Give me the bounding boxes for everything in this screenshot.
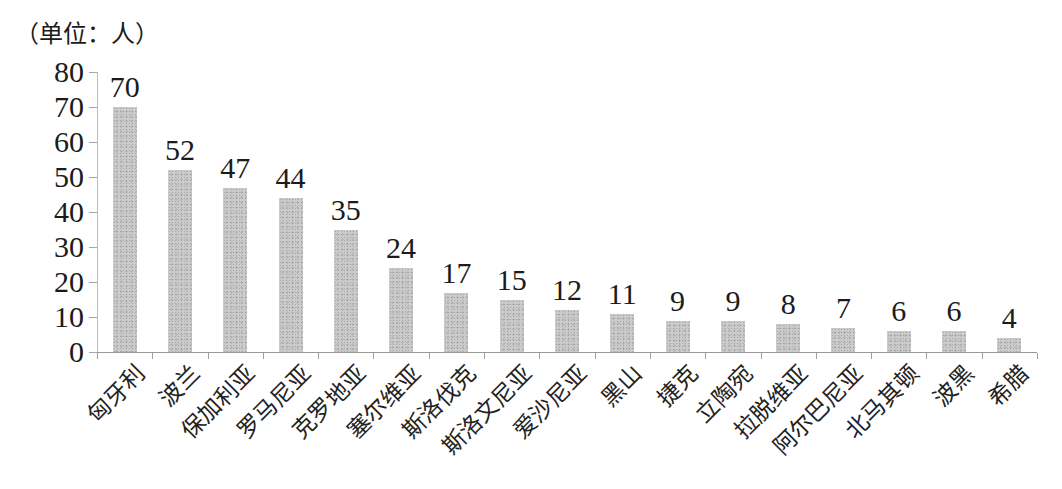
bar-chart: （单位：人） 0102030405060708070匈牙利52波兰47保加利亚4…	[0, 0, 1062, 489]
x-axis-tick	[318, 353, 319, 359]
x-axis-tick	[926, 353, 927, 359]
x-axis-tick	[539, 353, 540, 359]
bar	[444, 293, 468, 353]
bar	[168, 170, 192, 352]
bar	[997, 338, 1021, 352]
x-axis-tick	[761, 353, 762, 359]
x-axis-tick	[982, 353, 983, 359]
x-axis-tick	[429, 353, 430, 359]
y-axis-tick-label: 80	[10, 57, 84, 87]
x-axis-tick	[97, 353, 98, 359]
unit-label: （单位：人）	[15, 14, 159, 49]
x-axis-category-label: 波黑	[929, 361, 979, 411]
bar	[666, 321, 690, 353]
bar-value-label: 47	[220, 153, 250, 183]
x-axis-tick	[263, 353, 264, 359]
x-axis-tick	[871, 353, 872, 359]
bar	[334, 230, 358, 353]
x-axis-tick	[1037, 353, 1038, 359]
bar-value-label: 11	[608, 279, 637, 309]
y-axis-tick-label: 30	[10, 232, 84, 262]
y-axis-tick-label: 0	[10, 337, 84, 367]
bar-value-label: 9	[670, 286, 685, 316]
bar-value-label: 70	[110, 72, 140, 102]
bar	[555, 310, 579, 352]
bar	[721, 321, 745, 353]
bar-value-label: 52	[165, 135, 195, 165]
y-axis-tick-label: 60	[10, 127, 84, 157]
bar-value-label: 12	[552, 275, 582, 305]
bar-value-label: 4	[1002, 303, 1017, 333]
x-axis-category-label: 捷克	[652, 361, 702, 411]
x-axis-tick	[816, 353, 817, 359]
y-axis-tick	[89, 142, 97, 143]
y-axis-tick	[89, 352, 97, 353]
y-axis-tick	[89, 212, 97, 213]
bar	[113, 107, 137, 352]
y-axis-tick	[89, 317, 97, 318]
bar-value-label: 6	[891, 296, 906, 326]
bar	[279, 198, 303, 352]
x-axis-line	[97, 352, 1037, 353]
x-axis-tick	[373, 353, 374, 359]
y-axis-tick-label: 50	[10, 162, 84, 192]
x-axis-tick	[208, 353, 209, 359]
bar-value-label: 15	[497, 265, 527, 295]
bar-value-label: 9	[725, 286, 740, 316]
bar-value-label: 24	[386, 233, 416, 263]
bar	[610, 314, 634, 353]
y-axis-line	[97, 72, 98, 352]
y-axis-tick-label: 70	[10, 92, 84, 122]
bar	[389, 268, 413, 352]
x-axis-category-label: 匈牙利	[83, 361, 150, 428]
bar	[500, 300, 524, 353]
bar	[831, 328, 855, 353]
bar	[776, 324, 800, 352]
bar-value-label: 6	[947, 296, 962, 326]
x-axis-category-label: 希腊	[984, 361, 1034, 411]
y-axis-tick	[89, 177, 97, 178]
bar-value-label: 44	[276, 163, 306, 193]
x-axis-tick	[650, 353, 651, 359]
bar-value-label: 35	[331, 195, 361, 225]
y-axis-tick	[89, 247, 97, 248]
bar-value-label: 17	[441, 258, 471, 288]
x-axis-tick	[595, 353, 596, 359]
y-axis-tick	[89, 282, 97, 283]
y-axis-tick	[89, 72, 97, 73]
y-axis-tick-label: 10	[10, 302, 84, 332]
bar	[887, 331, 911, 352]
bar-value-label: 7	[836, 293, 851, 323]
x-axis-tick	[484, 353, 485, 359]
y-axis-tick-label: 40	[10, 197, 84, 227]
bar-value-label: 8	[781, 289, 796, 319]
x-axis-tick	[152, 353, 153, 359]
y-axis-tick	[89, 107, 97, 108]
bar	[223, 188, 247, 353]
bar	[942, 331, 966, 352]
x-axis-tick	[705, 353, 706, 359]
x-axis-category-label: 黑山	[597, 361, 647, 411]
y-axis-tick-label: 20	[10, 267, 84, 297]
